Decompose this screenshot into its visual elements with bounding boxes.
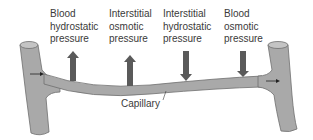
label-line: osmotic: [224, 21, 263, 34]
label-blood-hydrostatic-pressure: Blood hydrostatic pressure: [50, 8, 98, 46]
label-line: Blood: [224, 8, 263, 21]
capillary-label: Capillary: [121, 98, 160, 111]
label-interstitial-osmotic-pressure: Interstitial osmotic pressure: [109, 8, 152, 46]
capillary-diagram: [0, 0, 313, 140]
label-line: Blood: [50, 8, 98, 21]
label-line: pressure: [163, 33, 211, 46]
label-blood-osmotic-pressure: Blood osmotic pressure: [224, 8, 263, 46]
blood-hydrostatic-arrow-up-icon: [67, 51, 79, 81]
arteriole: [20, 42, 60, 135]
label-line: Interstitial: [163, 8, 211, 21]
label-interstitial-hydrostatic-pressure: Interstitial hydrostatic pressure: [163, 8, 211, 46]
blood-osmotic-arrow-down-icon: [237, 51, 249, 77]
interstitial-osmotic-arrow-up-icon: [124, 55, 136, 86]
capillary-tube: [44, 74, 262, 96]
label-line: hydrostatic: [50, 21, 98, 34]
label-line: osmotic: [109, 21, 152, 34]
label-line: pressure: [109, 33, 152, 46]
label-line: pressure: [224, 33, 263, 46]
label-line: pressure: [50, 33, 98, 46]
label-line: hydrostatic: [163, 21, 211, 34]
label-line: Interstitial: [109, 8, 152, 21]
venule: [258, 42, 297, 132]
interstitial-hydrostatic-arrow-down-icon: [180, 51, 192, 81]
